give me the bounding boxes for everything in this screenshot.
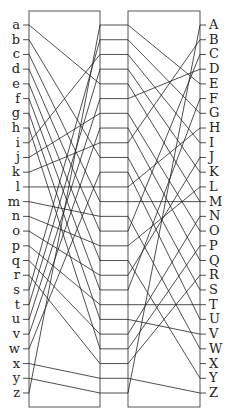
left-label-y: y bbox=[12, 370, 21, 385]
right-label-J: J bbox=[207, 149, 214, 164]
left-label-a: a bbox=[12, 17, 20, 32]
right-label-I: I bbox=[209, 135, 214, 150]
permutation-diagram: abcdefghijklmnopqrstuvwxyz ABCDEFGHIJKLM… bbox=[0, 0, 230, 419]
left-label-z: z bbox=[13, 385, 20, 400]
left-wire bbox=[29, 69, 100, 231]
right-label-A: A bbox=[208, 17, 219, 32]
right-label-W: W bbox=[209, 341, 223, 356]
left-wire bbox=[29, 25, 100, 393]
right-label-K: K bbox=[209, 164, 219, 179]
right-label-T: T bbox=[209, 297, 218, 312]
left-label-b: b bbox=[12, 32, 20, 47]
left-label-f: f bbox=[15, 91, 21, 106]
right-label-D: D bbox=[209, 61, 219, 76]
right-wire bbox=[128, 275, 200, 363]
right-label-B: B bbox=[209, 32, 219, 47]
left-wire bbox=[29, 25, 100, 84]
left-label-x: x bbox=[13, 356, 21, 371]
left-wire bbox=[29, 128, 100, 334]
left-wire bbox=[29, 128, 100, 349]
right-label-H: H bbox=[209, 120, 220, 135]
right-label-R: R bbox=[209, 267, 220, 282]
right-wire bbox=[128, 319, 200, 334]
right-wire bbox=[128, 54, 200, 142]
left-label-u: u bbox=[12, 311, 20, 326]
left-wire bbox=[29, 84, 100, 261]
right-label-L: L bbox=[209, 179, 218, 194]
left-label-m: m bbox=[8, 194, 20, 209]
right-label-O: O bbox=[209, 223, 220, 238]
left-label-w: w bbox=[9, 341, 20, 356]
right-label-U: U bbox=[209, 311, 220, 326]
left-label-r: r bbox=[14, 267, 21, 282]
right-wire bbox=[128, 25, 200, 393]
left-label-l: l bbox=[16, 179, 20, 194]
right-wire bbox=[128, 157, 200, 289]
left-label-s: s bbox=[13, 282, 20, 297]
left-label-p: p bbox=[12, 238, 20, 253]
left-label-q: q bbox=[12, 253, 20, 268]
left-label-o: o bbox=[12, 223, 20, 238]
left-label-e: e bbox=[12, 76, 20, 91]
right-wire bbox=[128, 25, 200, 84]
right-label-F: F bbox=[209, 91, 218, 106]
right-wire bbox=[128, 157, 200, 275]
right-label-Y: Y bbox=[208, 370, 218, 385]
left-wire bbox=[29, 246, 100, 305]
right-label-C: C bbox=[209, 46, 219, 61]
right-wire bbox=[128, 113, 200, 231]
left-labels: abcdefghijklmnopqrstuvwxyz bbox=[8, 17, 29, 400]
right-label-V: V bbox=[208, 326, 219, 341]
left-label-i: i bbox=[16, 135, 20, 150]
left-wire bbox=[29, 54, 100, 142]
left-label-t: t bbox=[15, 297, 21, 312]
right-wire bbox=[128, 216, 200, 348]
left-wire bbox=[29, 143, 100, 172]
right-labels: ABCDEFGHIJKLMNOPQRSTUVWXYZ bbox=[200, 17, 223, 400]
left-label-v: v bbox=[12, 326, 21, 341]
left-label-h: h bbox=[12, 120, 21, 135]
right-wire bbox=[128, 216, 200, 334]
right-label-P: P bbox=[209, 238, 218, 253]
right-label-M: M bbox=[209, 194, 222, 209]
left-label-k: k bbox=[12, 164, 20, 179]
right-wire bbox=[128, 69, 200, 98]
left-label-n: n bbox=[12, 208, 21, 223]
left-label-d: d bbox=[12, 61, 20, 76]
left-label-g: g bbox=[12, 105, 20, 120]
right-label-X: X bbox=[209, 356, 219, 371]
right-label-Q: Q bbox=[209, 253, 220, 268]
left-crossing-network bbox=[29, 25, 100, 393]
middle-slot-lines bbox=[100, 25, 128, 393]
right-label-N: N bbox=[209, 208, 220, 223]
right-wire bbox=[128, 128, 200, 187]
left-label-j: j bbox=[14, 149, 20, 164]
right-label-S: S bbox=[209, 282, 218, 297]
left-label-c: c bbox=[13, 46, 20, 61]
right-label-E: E bbox=[209, 76, 219, 91]
right-wire bbox=[128, 378, 200, 393]
left-wire bbox=[29, 378, 100, 393]
left-wire bbox=[29, 364, 100, 379]
right-wire bbox=[128, 69, 200, 172]
right-crossing-network bbox=[128, 25, 200, 393]
right-label-Z: Z bbox=[209, 385, 218, 400]
right-label-G: G bbox=[209, 105, 219, 120]
